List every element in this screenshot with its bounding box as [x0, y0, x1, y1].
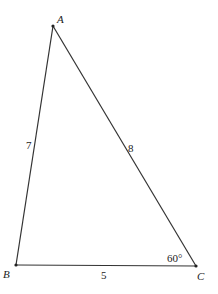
vertex-c-point: [194, 264, 197, 267]
angle-c-label: 60°: [167, 252, 182, 264]
vertex-a-point: [51, 24, 54, 27]
vertex-c-label: C: [197, 270, 205, 282]
vertex-b-label: B: [3, 268, 10, 280]
side-ab: [16, 26, 53, 265]
side-ac: [53, 26, 196, 266]
side-ab-length: 7: [26, 139, 32, 151]
triangle-diagram: A B C 7 8 5 60°: [0, 0, 218, 294]
side-bc-length: 5: [101, 269, 107, 281]
side-ac-length: 8: [128, 142, 134, 154]
vertex-b-point: [14, 263, 17, 266]
side-bc: [16, 265, 196, 266]
vertex-a-label: A: [56, 13, 64, 25]
